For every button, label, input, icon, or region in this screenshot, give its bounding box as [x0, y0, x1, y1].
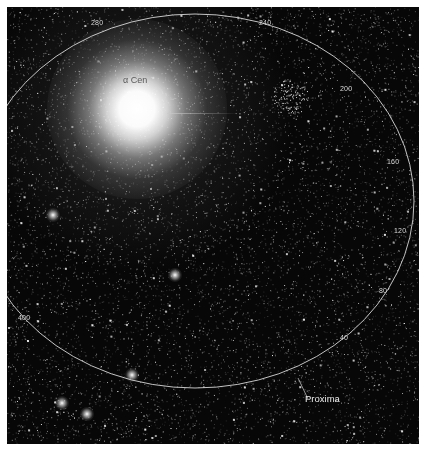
orbit-tick-label: 280: [91, 19, 103, 26]
orbit-tick-label: 120: [394, 227, 406, 234]
star-field-image: α Cen Proxima 2802402001601208040400: [7, 7, 419, 444]
orbit-tick-label: 200: [340, 85, 352, 92]
orbit-tick-label: 240: [259, 19, 271, 26]
orbit-tick-label: 400: [18, 314, 30, 321]
alpha-cen-label: α Cen: [123, 75, 147, 85]
orbit-tick-label: 40: [340, 334, 348, 341]
orbit-tick-label: 80: [379, 287, 387, 294]
orbit-overlay: [7, 7, 419, 444]
proxima-orbit-ellipse: [7, 14, 414, 388]
proxima-label: Proxima: [305, 393, 340, 404]
orbit-tick-label: 160: [387, 158, 399, 165]
